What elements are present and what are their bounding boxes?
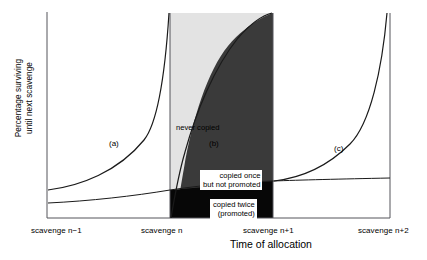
region-label-copied-twice: copied twice (promoted) <box>210 199 257 219</box>
region-label-copied-once: copied once but not promoted <box>200 170 262 190</box>
x-axis-title: Time of allocation <box>230 238 312 250</box>
figure-container: Percentage surviving until next scavenge… <box>0 0 427 260</box>
xtick-label-scavenge-n-minus-1: scavenge n−1 <box>31 226 82 235</box>
curve-label-c: (c) <box>334 144 343 153</box>
xtick-label-scavenge-n-plus-2: scavenge n+2 <box>358 226 409 235</box>
region-label-never-copied: never copied <box>176 123 219 132</box>
xtick-label-scavenge-n-plus-1: scavenge n+1 <box>243 226 294 235</box>
curve-label-a: (a) <box>109 139 119 148</box>
curve-c-line <box>274 13 387 181</box>
y-axis-title: Percentage surviving until next scavenge <box>14 0 40 198</box>
curve-label-b: (b) <box>209 139 219 148</box>
xtick-label-scavenge-n: scavenge n <box>141 226 182 235</box>
curve-a-line <box>48 13 169 190</box>
